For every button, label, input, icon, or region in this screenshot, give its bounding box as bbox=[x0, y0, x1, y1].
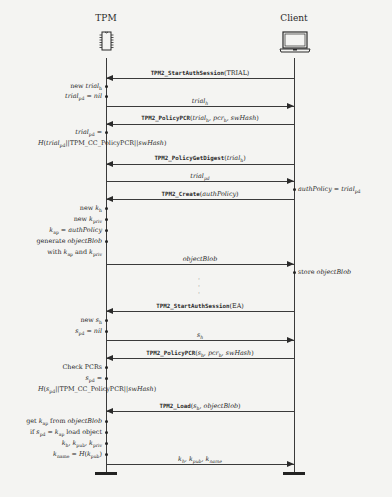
client-note-auth-policy: authPolicy = trialpd bbox=[298, 185, 361, 193]
tpm-note: new kh bbox=[80, 204, 102, 212]
message-policy-get-digest: TPM2_PolicyGetDigest(trialh) bbox=[106, 154, 294, 162]
message-object-blob: objectBlob bbox=[106, 255, 294, 263]
client-lifeline-end bbox=[283, 472, 305, 475]
event-dot bbox=[105, 420, 108, 423]
event-dot bbox=[105, 366, 108, 369]
tpm-note: kname = H(kpub) bbox=[53, 450, 102, 458]
tpm-label: TPM bbox=[76, 13, 136, 23]
arrow-client-to-tpm bbox=[106, 164, 294, 165]
tpm-note: kh, kpub, kpriv bbox=[62, 439, 102, 447]
tpm-note: spd = nil bbox=[75, 327, 102, 335]
arrow-tpm-to-client bbox=[106, 464, 294, 465]
tpm-note: trialpd = nil bbox=[65, 92, 102, 100]
tpm-note: if spd = kap load object bbox=[30, 428, 102, 436]
client-note-store: store objectBlob bbox=[298, 268, 351, 276]
tpm-note: generate objectBlob bbox=[36, 237, 102, 245]
tpm-note: kap = authPolicy bbox=[49, 226, 102, 234]
tpm-note-hash: H(trialpd||TPM_CC_PolicyPCR||swHash) bbox=[38, 139, 166, 147]
client-label: Client bbox=[264, 13, 324, 23]
message-trial-h: trialh bbox=[106, 97, 294, 105]
event-dot bbox=[105, 229, 108, 232]
laptop-icon bbox=[279, 31, 311, 57]
tpm-note: new trialh bbox=[70, 82, 102, 90]
arrow-client-to-tpm bbox=[106, 78, 294, 79]
tpm-note: trialpd = bbox=[75, 128, 102, 136]
message-load: TPM2_Load(sh, objectBlob) bbox=[106, 402, 294, 410]
tpm-note-hash: H(spd||TPM_CC_PolicyPCR||swHash) bbox=[38, 385, 156, 393]
tpm-note: Check PCRs bbox=[62, 363, 102, 371]
event-dot bbox=[105, 218, 108, 221]
arrow-tpm-to-client bbox=[106, 181, 294, 182]
tpm-note: new sh bbox=[80, 316, 102, 324]
tpm-note: get kap from objectBlob bbox=[26, 417, 102, 425]
message-create: TPM2_Create(authPolicy) bbox=[106, 190, 294, 198]
arrow-client-to-tpm bbox=[106, 311, 294, 312]
event-dot bbox=[105, 431, 108, 434]
arrow-client-to-tpm bbox=[106, 199, 294, 200]
tpm-note: with kap and kpriv bbox=[47, 248, 102, 256]
arrow-tpm-to-client bbox=[106, 106, 294, 107]
message-s-h: sh bbox=[106, 331, 294, 339]
event-dot bbox=[293, 271, 296, 274]
message-trial-pd: trialpd bbox=[106, 172, 294, 180]
event-dot bbox=[105, 442, 108, 445]
message-start-auth-session-trial: TPM2_StartAuthSession(TRIAL) bbox=[106, 69, 294, 77]
event-dot bbox=[105, 207, 108, 210]
message-start-auth-session-ea: TPM2_StartAuthSession(EA) bbox=[106, 302, 294, 310]
arrow-client-to-tpm bbox=[106, 124, 294, 125]
arrow-tpm-to-client bbox=[106, 340, 294, 341]
tpm-note: new kpriv bbox=[74, 215, 102, 223]
chip-icon bbox=[99, 31, 114, 55]
event-dot bbox=[105, 240, 108, 243]
tpm-lifeline-end bbox=[95, 472, 117, 475]
event-dot bbox=[105, 319, 108, 322]
event-dot bbox=[105, 131, 108, 134]
client-lifeline bbox=[294, 58, 295, 473]
continuation-ellipsis: ··· bbox=[194, 275, 204, 296]
arrow-client-to-tpm bbox=[106, 411, 294, 412]
message-key-handles: kh, kpub, kname bbox=[106, 455, 294, 463]
event-dot bbox=[105, 377, 108, 380]
message-policy-pcr-trial: TPM2_PolicyPCR(trialh, pcrh, swHash) bbox=[106, 114, 294, 122]
message-policy-pcr-session: TPM2_PolicyPCR(sh, pcrh, swHash) bbox=[106, 349, 294, 357]
event-dot bbox=[105, 85, 108, 88]
tpm-note: spd = bbox=[86, 374, 102, 382]
arrow-client-to-tpm bbox=[106, 358, 294, 359]
arrow-tpm-to-client bbox=[106, 264, 294, 265]
